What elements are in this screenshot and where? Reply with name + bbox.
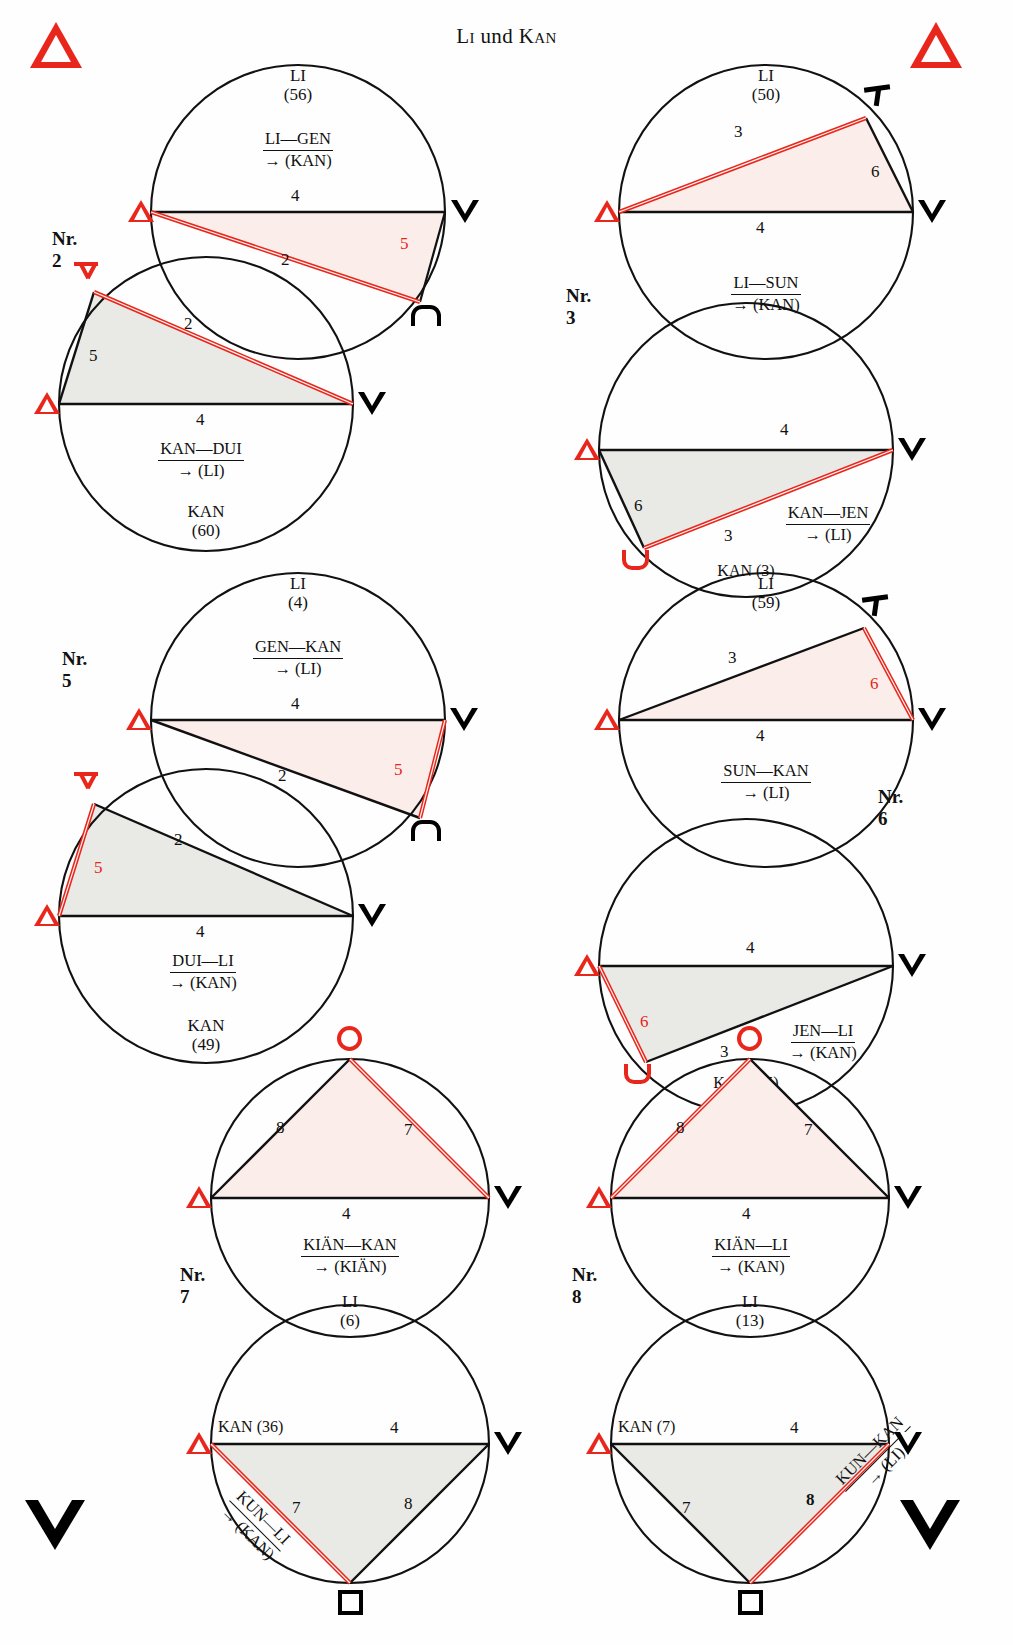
circle-top-label: LI (50) — [716, 66, 816, 104]
figure-number-label: Nr. 8 — [572, 1264, 597, 1308]
marker-left-triangle-up-red-icon — [128, 200, 154, 222]
relation-label: SUN—KAN → (LI) — [690, 762, 842, 803]
marker-right-triangle-down-black-icon — [494, 1186, 522, 1209]
relation-bottom-text: → (LI) — [756, 525, 900, 545]
nr3-lower-unit: 4 6 3 KAN—JEN → (LI) KAN (3) — [596, 300, 896, 600]
top-value-text: (56) — [284, 85, 312, 104]
diameter-label: 4 — [756, 218, 765, 238]
relation-top-text: KAN—DUI — [158, 440, 244, 461]
relation-top-text: GEN—KAN — [253, 638, 343, 659]
corner-marker-bottom-left — [25, 1500, 85, 1556]
relation-bottom-text: → (LI) — [126, 461, 276, 481]
marker-right-triangle-down-black-icon — [894, 1186, 922, 1209]
diameter-label: 4 — [342, 1204, 351, 1224]
marker-vertex-circle-red-icon — [337, 1026, 362, 1051]
circle-bottom-label: KAN (49) — [151, 1016, 261, 1054]
side-b-label: 5 — [94, 858, 103, 878]
relation-label: LI—GEN → (KAN) — [226, 130, 370, 171]
relation-bottom-text: → (KAN) — [678, 1257, 824, 1277]
marker-vertex-tee-black-icon — [862, 596, 888, 616]
triangle-fill — [619, 628, 913, 720]
marker-vertex-arrow-down-red-icon — [74, 262, 98, 284]
marker-left-triangle-up-red-icon — [594, 200, 620, 222]
top-value-text: (4) — [288, 593, 308, 612]
triangle-fill — [59, 804, 353, 916]
side-a-label: 7 — [292, 1498, 301, 1518]
side-a-label: 2 — [184, 314, 193, 334]
marker-right-triangle-down-black-icon — [918, 200, 946, 223]
nr7-upper-unit: 8 7 4 KIÄN—KAN → (KIÄN) LI (6) — [208, 1056, 492, 1340]
triangle-fill — [619, 118, 913, 212]
side-a-label: 8 — [676, 1118, 685, 1138]
marker-right-triangle-down-black-icon — [358, 392, 386, 415]
diagram-page: Li und Kan Nr. 2 LI (56) LI—GEN → (KAN) … — [0, 0, 1013, 1645]
relation-bottom-text: → (LI) — [224, 659, 372, 679]
triangle-down-black-icon — [25, 1500, 85, 1550]
side-b-label: 6 — [871, 162, 880, 182]
top-value-text: (59) — [752, 593, 780, 612]
nr7-lower-unit: KAN (36) 4 7 8 KUN—LI → (KAN) — [208, 1302, 492, 1586]
relation-label: KAN—JEN → (LI) — [756, 504, 900, 545]
marker-right-triangle-down-black-icon — [451, 200, 479, 223]
triangle-fill — [611, 1059, 889, 1198]
relation-bottom-text: → (LI) — [690, 783, 842, 803]
marker-left-triangle-up-red-icon — [186, 1186, 212, 1208]
top-label-text: LI — [758, 574, 774, 593]
diameter-label: 4 — [196, 410, 205, 430]
marker-left-triangle-up-red-icon — [34, 904, 60, 926]
side-b-label: 8 — [404, 1494, 413, 1514]
relation-top-text: KIÄN—LI — [712, 1236, 789, 1257]
relation-label: KIÄN—KAN → (KIÄN) — [272, 1236, 428, 1277]
marker-right-triangle-down-black-icon — [894, 1432, 922, 1455]
marker-right-triangle-down-black-icon — [898, 438, 926, 461]
marker-vertex-circle-red-icon — [737, 1026, 762, 1051]
relation-bottom-text: → (KIÄN) — [272, 1257, 428, 1277]
marker-vertex-arrow-down-red-icon — [74, 772, 98, 794]
circle-top-label: LI (59) — [716, 574, 816, 612]
bottom-label-text: KAN — [188, 1016, 225, 1035]
relation-top-text: KIÄN—KAN — [301, 1236, 399, 1257]
side-a-label: 8 — [276, 1118, 285, 1138]
triangle-down-black-icon — [900, 1500, 960, 1550]
marker-vertex-tee-black-icon — [864, 86, 890, 106]
figure-number-label: Nr. 7 — [180, 1264, 205, 1308]
side-b-label: 7 — [804, 1120, 813, 1140]
relation-top-text: LI—SUN — [731, 274, 800, 295]
marker-vertex-u-cup-red-icon — [622, 550, 649, 570]
marker-left-triangle-up-red-icon — [186, 1432, 212, 1454]
relation-label: KAN—DUI → (LI) — [126, 440, 276, 481]
relation-bottom-text: → (KAN) — [128, 973, 278, 993]
relation-top-text: LI—GEN — [263, 130, 333, 151]
diameter-label: 4 — [756, 726, 765, 746]
relation-label: GEN—KAN → (LI) — [224, 638, 372, 679]
circle-bottom-label: KAN (60) — [151, 502, 261, 540]
diameter-label: 4 — [196, 922, 205, 942]
diameter-label: 4 — [291, 186, 300, 206]
marker-left-triangle-up-red-icon — [126, 708, 152, 730]
relation-top-text: SUN—KAN — [721, 762, 810, 783]
marker-vertex-arch-black-icon — [411, 820, 441, 841]
marker-vertex-arch-black-icon — [411, 305, 441, 326]
top-label-text: LI — [758, 66, 774, 85]
side-b-label: 6 — [634, 496, 643, 516]
relation-top-text: JEN—LI — [791, 1022, 856, 1043]
relation-top-text: DUI—LI — [170, 952, 235, 973]
circle-top-label: KAN (7) — [618, 1418, 675, 1436]
side-a-label: 3 — [734, 122, 743, 142]
page-title-li: Li — [456, 24, 475, 48]
marker-vertex-square-black-icon — [738, 1590, 763, 1615]
marker-vertex-square-black-icon — [338, 1590, 363, 1615]
bottom-label-text: KAN — [188, 502, 225, 521]
nr5-lower-unit: 2 5 4 DUI—LI → (KAN) KAN (49) — [56, 766, 356, 1066]
top-label-text: LI — [290, 574, 306, 593]
marker-left-triangle-up-red-icon — [34, 392, 60, 414]
page-title-kan: Kan — [519, 24, 557, 48]
side-b-label: 6 — [870, 674, 879, 694]
diameter-label: 4 — [291, 694, 300, 714]
marker-left-triangle-up-red-icon — [586, 1186, 612, 1208]
figure-number-label: Nr. 3 — [566, 285, 591, 329]
diameter-label: 4 — [746, 938, 755, 958]
corner-marker-bottom-right — [900, 1500, 960, 1556]
relation-top-text: KAN—JEN — [786, 504, 871, 525]
marker-right-triangle-down-black-icon — [898, 954, 926, 977]
